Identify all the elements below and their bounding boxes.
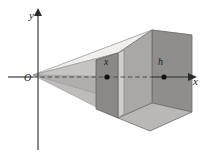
cross-section-dot-marker (104, 74, 109, 79)
y-axis-arrowhead-icon (34, 8, 42, 16)
solid-right-end-face (152, 30, 192, 112)
x-axis-label: x (193, 76, 198, 87)
cross-section-side-face (118, 50, 124, 118)
figure-canvas: y x O x h (0, 0, 209, 155)
depth-label: h (158, 57, 163, 67)
origin-label: O (24, 73, 31, 83)
solid-diagram-svg (0, 0, 209, 155)
y-axis-label: y (29, 10, 34, 21)
depth-dot-marker (161, 74, 166, 79)
cross-section-label: x (104, 57, 108, 67)
